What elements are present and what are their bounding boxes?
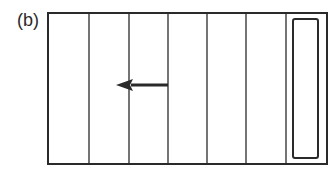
outer-box xyxy=(48,13,327,164)
diagram-root xyxy=(48,13,327,164)
inner-rounded-rect xyxy=(293,19,318,158)
arrow-left-icon xyxy=(116,79,133,91)
strip-diagram xyxy=(0,0,336,178)
